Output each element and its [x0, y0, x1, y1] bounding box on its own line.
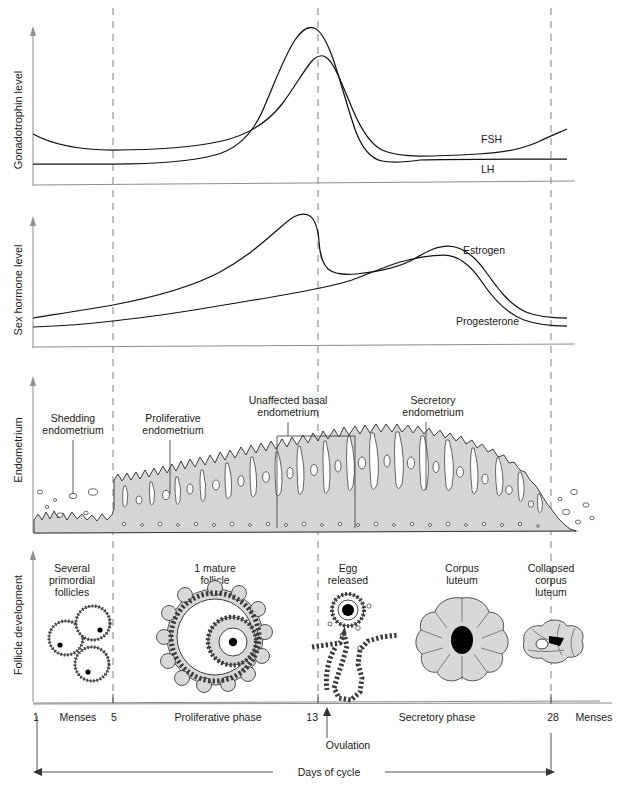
timeline-day-5: 5	[111, 711, 117, 723]
days-of-cycle-span: Days of cycle	[33, 716, 555, 778]
stage-primordial-line1: Several	[54, 562, 90, 574]
stage-mature-line1: 1 mature	[194, 562, 236, 574]
timeline-axis: 1 Menses 5 Proliferative phase 13 Secret…	[33, 694, 612, 778]
annotation-unaffected-line2: endometrium	[257, 406, 319, 418]
follicle-stage-labels: Several primordial follicles 1 mature fo…	[49, 562, 575, 598]
stage-egg-released-line1: Egg	[339, 562, 358, 574]
panel2-x-axis	[33, 344, 575, 347]
timeline-menses-right: Menses	[576, 711, 613, 723]
panel-endometrium-axis-label: Endometrium	[12, 417, 24, 482]
endometrium-shed-fragments-right	[558, 489, 594, 524]
panel1-x-axis	[33, 181, 575, 185]
panel-endometrium: Endometrium	[12, 376, 594, 533]
timeline-day-28: 28	[547, 711, 559, 723]
illustration-mature-follicle	[157, 581, 273, 693]
timeline-day-1: 1	[33, 711, 39, 723]
panel2-y-axis-arrow	[30, 216, 36, 226]
ovulation-label: Ovulation	[326, 739, 371, 751]
annotation-shedding-line2: endometrium	[42, 424, 104, 436]
annotation-unaffected-line1: Unaffected basal	[249, 394, 328, 406]
stage-collapsed-line3: luteum	[535, 586, 567, 598]
panel3-y-axis-arrow	[30, 376, 36, 386]
stage-corpus-luteum-line2: luteum	[446, 574, 478, 586]
illustration-corpus-luteum	[416, 598, 508, 681]
label-lh: LH	[481, 163, 494, 175]
illustration-primordial-follicles	[49, 606, 110, 681]
panel-follicle-axis-label: Follicle development	[12, 575, 24, 675]
stage-collapsed-line1: Collapsed	[528, 562, 575, 574]
figure-canvas: Gonadotrophin level FSH LH Sex hormone l…	[0, 0, 630, 786]
panel-sex-hormone-axis-label: Sex hormone level	[12, 244, 24, 335]
stage-collapsed-line2: corpus	[535, 574, 567, 586]
panel-follicle-development: Follicle development Several primordial …	[12, 550, 600, 703]
label-progesterone: Progesterone	[456, 315, 519, 327]
label-estrogen: Estrogen	[463, 244, 505, 256]
panel-gonadotrophin: Gonadotrophin level FSH LH	[12, 26, 575, 186]
timeline-secretory-phase: Secretory phase	[399, 711, 476, 723]
annotation-secretory-line1: Secretory	[411, 394, 457, 406]
stage-primordial-line2: primordial	[49, 574, 95, 586]
annotation-proliferative-line1: Proliferative	[145, 412, 201, 424]
panel-gonadotrophin-axis-label: Gonadotrophin level	[12, 71, 24, 169]
timeline-day-13: 13	[306, 711, 318, 723]
panel-sex-hormone: Sex hormone level Estrogen Progesterone	[12, 214, 575, 348]
timeline-proliferative-phase: Proliferative phase	[175, 711, 262, 723]
timeline-menses-left: Menses	[60, 711, 97, 723]
days-of-cycle-label: Days of cycle	[298, 766, 361, 778]
illustration-egg-released	[312, 594, 398, 700]
illustration-collapsed-corpus-luteum	[523, 620, 583, 663]
label-fsh: FSH	[481, 133, 502, 145]
panel1-y-axis-arrow	[30, 26, 36, 36]
ovulation-marker: Ovulation	[323, 707, 370, 751]
stage-egg-released-line2: released	[328, 574, 368, 586]
menstrual-cycle-diagram: Gonadotrophin level FSH LH Sex hormone l…	[0, 0, 630, 786]
annotation-secretory-line2: endometrium	[402, 406, 464, 418]
annotation-shedding-endometrium: Shedding endometrium	[42, 412, 104, 493]
annotation-proliferative-line2: endometrium	[142, 424, 204, 436]
panel4-y-axis-arrow	[30, 550, 36, 560]
stage-primordial-line3: follicles	[55, 586, 89, 598]
stage-corpus-luteum-line1: Corpus	[445, 562, 479, 574]
annotation-shedding-line1: Shedding	[51, 412, 96, 424]
endometrium-tissue	[34, 424, 576, 533]
